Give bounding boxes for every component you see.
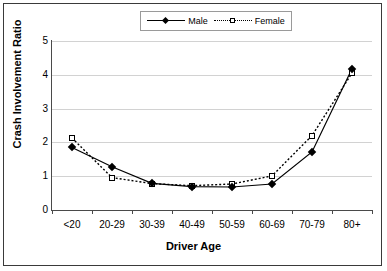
legend-line-female-dotted: [214, 17, 252, 25]
x-axis-tick-mark: [52, 210, 53, 214]
y-axis-tick-label: 4: [26, 70, 48, 80]
x-axis-tick-mark: [172, 210, 173, 214]
x-axis-tick-mark: [332, 210, 333, 214]
chart-legend: Male Female: [140, 11, 292, 31]
square-marker-icon: [230, 18, 235, 23]
y-axis-tick-label: 2: [26, 137, 48, 147]
y-axis-tick-label: 0: [26, 205, 48, 215]
legend-entry-female: Female: [214, 17, 285, 26]
x-axis-tick-mark: [132, 210, 133, 214]
y-axis-tick-label: 3: [26, 104, 48, 114]
y-axis-tick-labels: 012345: [24, 4, 48, 271]
x-axis-tick-label: 80+: [329, 220, 375, 230]
chart-frame: Male Female Crash Involvement Ratio 0123…: [3, 3, 382, 266]
data-point-female: [309, 133, 315, 139]
legend-entry-male: Male: [147, 17, 208, 26]
plot-area: [52, 41, 372, 210]
y-axis-tick-label: 5: [26, 36, 48, 46]
y-axis-title: Crash Involvement Ratio: [11, 9, 23, 159]
x-axis-tick-mark: [252, 210, 253, 214]
x-axis-tick-mark: [372, 210, 373, 214]
x-axis-tick-mark: [92, 210, 93, 214]
x-axis-title: Driver Age: [4, 240, 383, 252]
legend-line-male-solid: [147, 17, 185, 25]
data-point-female: [69, 135, 75, 141]
x-axis-tick-mark: [292, 210, 293, 214]
data-point-female: [269, 173, 275, 179]
diamond-marker-icon: [162, 17, 169, 24]
y-axis-tick-label: 1: [26, 171, 48, 181]
series-line-male: [52, 41, 372, 210]
data-point-female: [109, 175, 115, 181]
legend-label-male: Male: [188, 17, 208, 26]
legend-label-female: Female: [255, 17, 285, 26]
x-axis-tick-mark: [212, 210, 213, 214]
